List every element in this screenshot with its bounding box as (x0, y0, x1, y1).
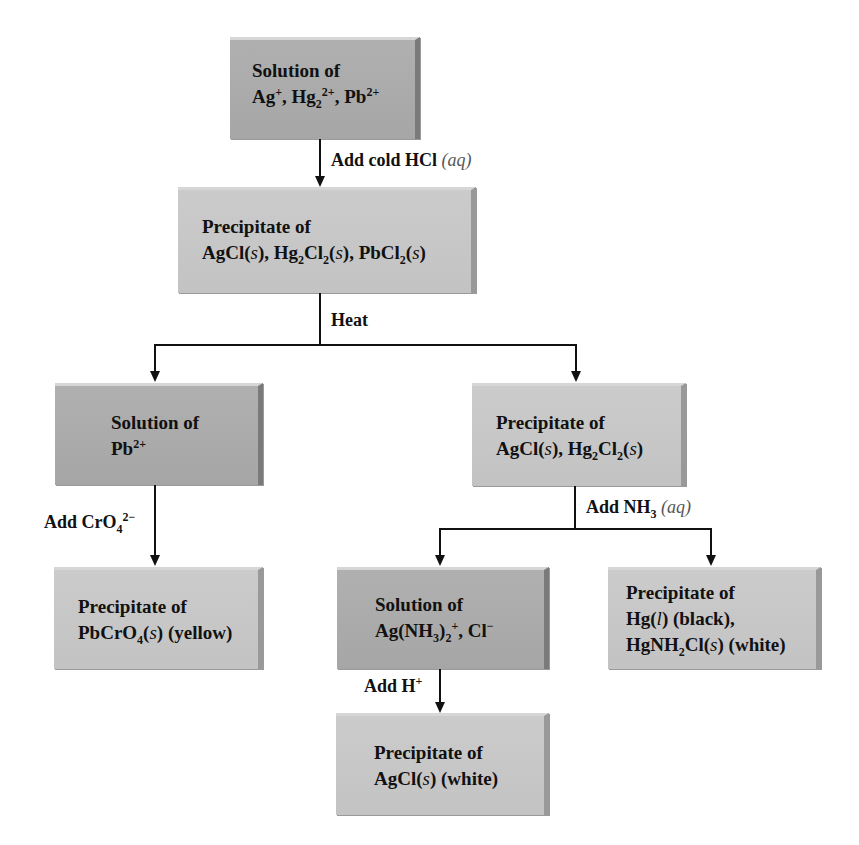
edge-label-add-chromate: Add CrO42− (44, 512, 135, 533)
node-heading: Precipitate of (496, 412, 605, 433)
node-species: AgCl(s) (white) (374, 768, 498, 789)
arrow-shaft (439, 669, 441, 703)
connector (439, 528, 712, 530)
connector (319, 293, 321, 346)
node-silver-ammine-solution: Solution of Ag(NH3)2+, Cl− (337, 567, 549, 669)
node-species: AgCl(s), Hg2Cl2(s) (496, 438, 643, 459)
node-initial-solution: Solution of Ag+, Hg22+, Pb2+ (230, 37, 420, 139)
arrow-head-icon (571, 371, 581, 382)
arrow-shaft (319, 139, 321, 177)
node-heading: Solution of (252, 60, 340, 81)
node-silver-chloride-precipitate: Precipitate of AgCl(s) (white) (336, 713, 549, 815)
arrow-head-icon (150, 371, 160, 382)
node-mercury-precipitate: Precipitate of Hg(l) (black), HgNH2Cl(s)… (608, 567, 821, 669)
node-species: Hg(l) (black), (626, 608, 735, 629)
node-species: Ag+, Hg22+, Pb2+ (252, 86, 379, 107)
arrow-shaft (154, 344, 156, 372)
edge-label-add-cold-hcl: Add cold HCl (aq) (331, 150, 472, 171)
arrow-shaft (575, 344, 577, 372)
node-species: Pb2+ (111, 438, 146, 459)
node-species: HgNH2Cl(s) (white) (626, 634, 786, 655)
node-heading: Precipitate of (202, 216, 311, 237)
node-lead-chromate-precipitate: Precipitate of PbCrO4(s) (yellow) (54, 567, 263, 669)
arrow-shaft (439, 528, 441, 556)
arrow-head-icon (150, 555, 160, 566)
node-heading: Precipitate of (78, 596, 187, 617)
arrow-head-icon (706, 555, 716, 566)
connector (574, 486, 576, 529)
node-group-precipitate: Precipitate of AgCl(s), Hg2Cl2(s), PbCl2… (178, 187, 476, 293)
edge-label-add-acid: Add H+ (364, 676, 422, 697)
node-species: Ag(NH3)2+, Cl− (375, 620, 494, 641)
arrow-shaft (154, 485, 156, 556)
arrow-head-icon (435, 702, 445, 713)
node-heading: Precipitate of (374, 742, 483, 763)
node-lead-solution: Solution of Pb2+ (55, 383, 263, 485)
node-silver-mercury-precipitate: Precipitate of AgCl(s), Hg2Cl2(s) (472, 383, 686, 486)
node-heading: Solution of (375, 594, 463, 615)
arrow-shaft (710, 528, 712, 556)
node-species: AgCl(s), Hg2Cl2(s), PbCl2(s) (202, 242, 426, 263)
node-heading: Solution of (111, 412, 199, 433)
node-heading: Precipitate of (626, 582, 735, 603)
edge-label-add-ammonia: Add NH3 (aq) (586, 497, 691, 518)
arrow-head-icon (435, 555, 445, 566)
arrow-head-icon (315, 176, 325, 187)
edge-label-heat: Heat (331, 310, 368, 331)
node-species: PbCrO4(s) (yellow) (78, 622, 232, 643)
connector (154, 344, 577, 346)
